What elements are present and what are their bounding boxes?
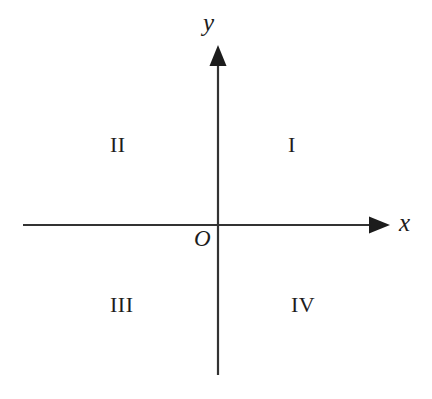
quadrant-label-iv: IV [291, 294, 315, 316]
quadrant-label-ii: II [110, 134, 126, 156]
arrow-right-icon [369, 217, 390, 234]
quadrant-label-i: I [288, 134, 296, 156]
x-axis-label: x [399, 210, 410, 235]
cartesian-plane-figure: y x O I II III IV [0, 0, 432, 399]
origin-label: O [194, 227, 211, 250]
y-axis-label: y [203, 10, 214, 35]
quadrant-label-iii: III [110, 294, 133, 316]
coordinate-axes [0, 0, 432, 399]
arrow-up-icon [210, 45, 227, 66]
